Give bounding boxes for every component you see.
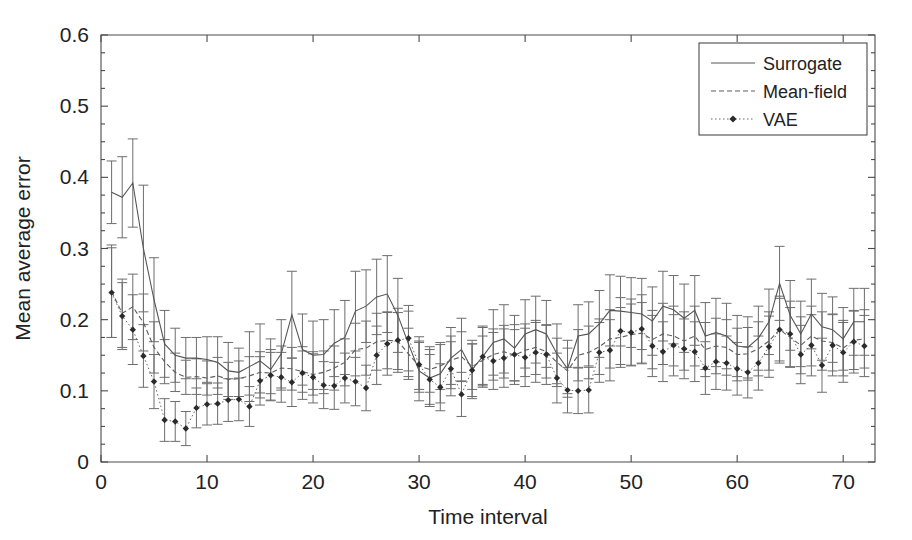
x-axis-title: Time interval <box>428 505 547 528</box>
chart-figure: 010203040506070 00.10.20.30.40.50.6 Time… <box>0 0 912 540</box>
y-tick-label: 0 <box>77 450 89 473</box>
legend-label: Surrogate <box>763 54 842 74</box>
x-tick-label: 10 <box>195 470 218 493</box>
y-tick-label: 0.4 <box>60 165 90 188</box>
y-tick-label: 0.2 <box>60 308 89 331</box>
x-tick-label: 40 <box>513 470 536 493</box>
x-tick-label: 30 <box>407 470 430 493</box>
y-tick-label: 0.3 <box>60 237 89 260</box>
y-tick-label: 0.1 <box>60 379 89 402</box>
legend-label: VAE <box>763 110 798 130</box>
x-tick-label: 50 <box>619 470 642 493</box>
y-tick-label: 0.5 <box>60 94 89 117</box>
y-axis-title: Mean average error <box>11 156 34 340</box>
mean-average-error-line-chart: 010203040506070 00.10.20.30.40.50.6 Time… <box>0 0 912 540</box>
y-tick-label: 0.6 <box>60 23 89 46</box>
chart-legend: SurrogateMean-fieldVAE <box>699 43 867 135</box>
x-tick-label: 0 <box>95 470 107 493</box>
x-tick-label: 70 <box>832 470 855 493</box>
x-tick-label: 60 <box>725 470 748 493</box>
x-tick-label: 20 <box>301 470 324 493</box>
legend-label: Mean-field <box>763 82 847 102</box>
